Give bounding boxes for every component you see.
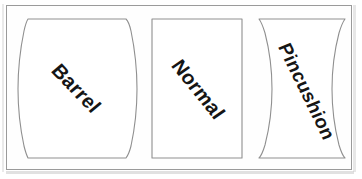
distortion-shapes-layer: Barrel Normal Pincushion — [0, 0, 362, 179]
lens-distortion-figure: Barrel Normal Pincushion — [0, 0, 362, 179]
